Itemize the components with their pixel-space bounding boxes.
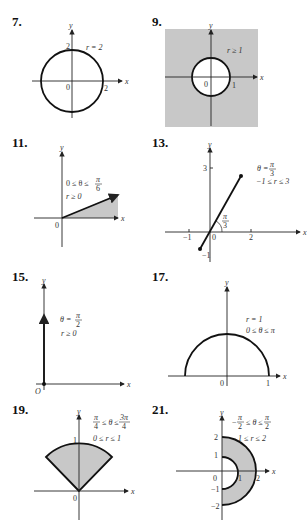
origin-label: 0 xyxy=(73,494,77,503)
y-axis-label: y xyxy=(68,21,73,30)
angle-num: π xyxy=(223,212,228,221)
x-axis-label: x xyxy=(120,214,125,223)
problem-17: 17. x y 0 1 r = 1 0 ≤ θ ≤ π xyxy=(152,269,287,388)
condition-r: r ≥ 0 xyxy=(61,329,77,338)
y-tick-label: −2 xyxy=(211,502,220,511)
fraction-num: 3π xyxy=(119,413,129,422)
problem-number: 15. xyxy=(12,269,28,284)
problem-11: 11. x y 0 0 ≤ θ ≤ π 6 r ≥ 0 xyxy=(12,135,125,247)
condition-theta: ≤ θ ≤ xyxy=(244,418,265,427)
minus-sign: − xyxy=(232,418,237,427)
origin-label: 0 xyxy=(55,221,59,230)
problem-19: 19. x y 0 1 π 4 ≤ θ ≤ 3π 4 0 ≤ r ≤ 1 xyxy=(12,402,135,520)
fraction-den: 6 xyxy=(96,184,100,193)
condition-r: r = 1 xyxy=(246,315,263,324)
y-axis-label: y xyxy=(207,140,212,149)
fraction-num: π xyxy=(265,413,270,422)
fraction-den: 2 xyxy=(76,320,80,329)
fraction-num: π xyxy=(238,413,243,422)
x-tick-label: 1 xyxy=(232,81,236,90)
problem-number: 11. xyxy=(12,135,28,150)
origin-label: 0 xyxy=(213,474,217,483)
problem-21: 21. x y 0 1 2 2 1 −1 −2 − π 2 ≤ θ ≤ π 2 … xyxy=(152,402,276,520)
segment xyxy=(200,176,241,249)
problem-7: 7. x y 2 2 0 r = 2 xyxy=(12,14,129,118)
x-tick-label: 2 xyxy=(249,233,253,242)
origin-label: 0 xyxy=(66,83,70,92)
fraction-num: π xyxy=(96,175,101,184)
fraction-num: π xyxy=(76,311,81,320)
x-axis-label: x xyxy=(259,73,264,82)
y-axis-label: y xyxy=(41,276,46,285)
condition-r: r ≥ 0 xyxy=(66,192,82,201)
condition-theta: θ = xyxy=(257,164,268,173)
problem-number: 21. xyxy=(152,402,168,417)
fraction-den: 2 xyxy=(265,422,269,431)
fraction-den: 4 xyxy=(94,422,98,431)
condition-r: 1 ≤ r ≤ 2 xyxy=(238,434,266,443)
origin-label: 0 xyxy=(204,80,208,89)
curve-label: r = 2 xyxy=(86,43,103,52)
problem-number: 17. xyxy=(152,269,168,284)
condition-theta: 0 ≤ θ ≤ π xyxy=(246,326,276,335)
fraction-den: 4 xyxy=(122,422,126,431)
y-axis-label: y xyxy=(224,278,229,287)
origin-point xyxy=(42,382,46,386)
x-tick-label: 1 xyxy=(266,379,270,388)
problem-9: 9. x y 0 1 r ≥ 1 xyxy=(152,14,264,127)
y-axis-label: y xyxy=(76,407,81,416)
x-axis-label: x xyxy=(124,77,129,86)
problem-15: 15. x y O θ = π 2 r ≥ 0 xyxy=(12,269,131,396)
x-tick-label: 2 xyxy=(256,474,260,483)
region-label: r ≥ 1 xyxy=(227,46,243,55)
x-axis-label: x xyxy=(126,380,131,389)
condition-theta: θ = xyxy=(60,315,71,324)
fraction-den: 2 xyxy=(238,422,242,431)
problem-number: 19. xyxy=(12,402,28,417)
y-tick-label: −1 xyxy=(211,485,220,494)
y-axis-label: y xyxy=(59,143,64,152)
x-tick-label: −1 xyxy=(183,233,192,242)
origin-label: 0 xyxy=(220,379,224,388)
condition-r: −1 ≤ r ≤ 3 xyxy=(256,177,289,186)
condition-theta: ≤ θ ≤ xyxy=(100,418,121,427)
endpoint xyxy=(239,174,243,178)
angle-arc xyxy=(216,221,222,232)
fraction-num: π xyxy=(94,413,99,422)
x-axis-label: x xyxy=(302,228,307,237)
problem-number: 13. xyxy=(152,135,168,150)
problem-number: 9. xyxy=(152,14,162,29)
y-tick-label: 3 xyxy=(203,164,207,173)
polar-graphs-figure: 7. x y 2 2 0 r = 2 9. x y 0 1 r ≥ 1 11. … xyxy=(0,0,308,532)
y-axis-label: y xyxy=(219,408,224,417)
y-tick-label: 1 xyxy=(73,436,77,445)
x-axis-label: x xyxy=(271,467,276,476)
problem-number: 7. xyxy=(12,14,22,29)
condition-r: 0 ≤ r ≤ 1 xyxy=(93,434,121,443)
origin-label: 0 xyxy=(212,233,216,242)
y-tick-label: 2 xyxy=(214,433,218,442)
y-tick-label: −1 xyxy=(202,251,211,260)
y-tick-label: 2 xyxy=(66,42,70,51)
x-axis-label: x xyxy=(282,372,287,381)
origin-label: O xyxy=(35,387,41,396)
x-tick-label: 2 xyxy=(104,84,108,93)
condition-theta: 0 ≤ θ ≤ xyxy=(66,179,89,188)
y-tick-label: 1 xyxy=(214,451,218,460)
x-tick-label: 1 xyxy=(238,474,242,483)
fraction-num: π xyxy=(270,160,275,169)
y-axis-label: y xyxy=(208,21,213,30)
angle-den: 3 xyxy=(223,221,227,230)
x-axis-label: x xyxy=(130,487,135,496)
problem-13: 13. x y 0 −1 2 3 −1 π 3 θ = π 3 −1 ≤ r ≤… xyxy=(152,135,307,262)
